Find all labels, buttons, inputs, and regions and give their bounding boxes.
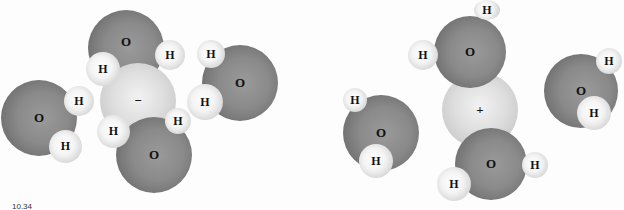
- hydrogen-atom: H: [596, 48, 622, 74]
- hydrogen-atom: H: [474, 0, 500, 20]
- hydrogen-atom: H: [165, 108, 191, 134]
- hydrogen-atom: H: [577, 96, 611, 130]
- hydrogen-atom: H: [86, 52, 120, 86]
- hydrogen-atom: H: [437, 167, 471, 201]
- hydrogen-atom: H: [97, 115, 130, 148]
- hydrogen-atom: H: [359, 144, 393, 178]
- hydrogen-atom: H: [408, 40, 438, 70]
- hydrogen-atom: H: [187, 84, 223, 120]
- hydrogen-atom: H: [155, 40, 185, 70]
- hydration-diagram: O H O H H O H − H H O H H + O H H O H H …: [0, 0, 624, 210]
- oxygen-atom: O: [434, 16, 506, 88]
- hydrogen-atom: H: [49, 130, 82, 163]
- hydrogen-atom: H: [343, 88, 367, 112]
- hydrogen-atom: H: [64, 86, 94, 116]
- hydrogen-atom: H: [522, 152, 548, 178]
- figure-caption-fragment: 10.34: [12, 202, 32, 210]
- hydrogen-atom: H: [197, 40, 225, 68]
